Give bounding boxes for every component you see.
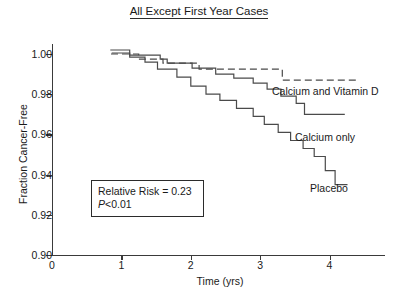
relative-risk-text: Relative Risk = 0.23	[98, 185, 198, 198]
series-group	[110, 50, 356, 185]
p-symbol: P	[98, 198, 105, 210]
plot-area	[0, 0, 398, 293]
statistics-annotation-box: Relative Risk = 0.23 P<0.01	[91, 180, 204, 217]
p-value-number: <0.01	[105, 198, 132, 210]
series-label-calcium-vitamin-d: Calcium and Vitamin D	[272, 85, 379, 97]
series-line-placebo	[112, 53, 348, 185]
p-value-text: P<0.01	[98, 198, 198, 211]
chart-figure: All Except First Year Cases 0.900.920.94…	[0, 0, 398, 293]
series-label-calcium-only: Calcium only	[295, 131, 355, 143]
series-label-placebo: Placebo	[310, 182, 348, 194]
